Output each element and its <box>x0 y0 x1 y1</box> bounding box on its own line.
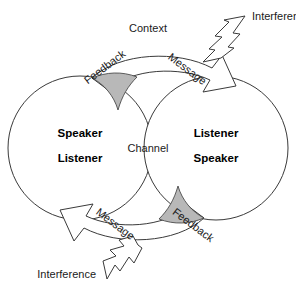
context-label: Context <box>129 22 167 34</box>
left-role-secondary-label: Listener <box>58 152 103 164</box>
communication-model-diagram: Context Channel Speaker Listener Listene… <box>0 0 296 294</box>
bottom-interference-label: Interference <box>37 268 96 280</box>
bottom-interference-bolt-icon <box>103 236 142 279</box>
diagram-canvas: Context Channel Speaker Listener Listene… <box>0 0 296 294</box>
right-role-primary-label: Listener <box>194 127 239 139</box>
channel-label: Channel <box>128 142 169 154</box>
left-role-primary-label: Speaker <box>58 127 103 139</box>
top-interference-bolt-icon <box>203 16 245 62</box>
right-role-secondary-label: Speaker <box>194 152 239 164</box>
top-interference-label: Interference <box>252 10 296 22</box>
